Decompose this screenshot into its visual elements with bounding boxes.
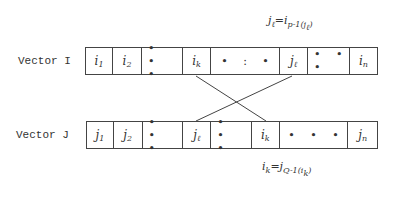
vector-j-label: Vector J <box>16 129 69 141</box>
formula-bottom-close: ) <box>308 166 311 175</box>
crossing-edges <box>0 0 396 198</box>
vector-j-cell-2: j2 <box>114 122 143 148</box>
vector-j-cell-n: jn <box>348 122 377 148</box>
vector-j-ellipsis-3: • • • <box>280 122 349 148</box>
formula-bottom-eq: =j <box>270 160 283 173</box>
vector-j-ellipsis-1: • • • <box>143 122 184 148</box>
edge-jl <box>196 76 292 121</box>
vector-j-cell-i-k: ik <box>252 122 280 148</box>
formula-bottom: ik=jQ-1(ik) <box>262 160 311 178</box>
formula-bottom-sub: Q-1 <box>283 166 298 175</box>
edge-ik <box>196 76 266 121</box>
vector-j-ellipsis-2: • • • <box>211 122 252 148</box>
vector-j: j1 j2 • • • jℓ • • • ik • • • jn <box>86 121 378 149</box>
vector-j-cell-1: j1 <box>87 122 114 148</box>
vector-j-cell-l: jℓ <box>183 122 211 148</box>
